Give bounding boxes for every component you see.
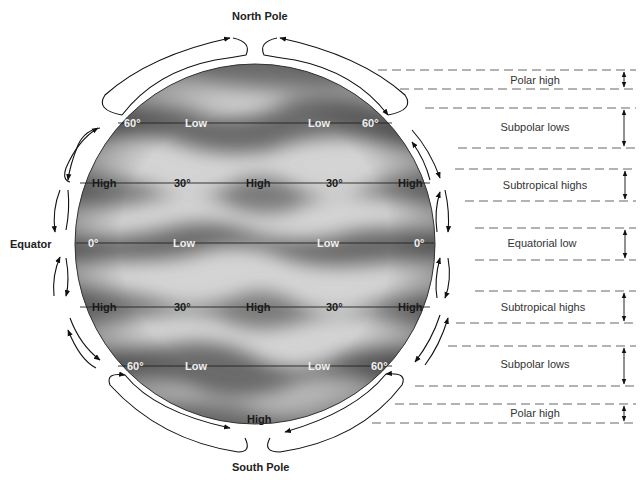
degree-label: 60° bbox=[362, 117, 379, 129]
zone-label-subpolar-lows-south: Subpolar lows bbox=[500, 358, 570, 370]
pressure-label: Low bbox=[308, 360, 330, 372]
zone-extent-arrows bbox=[624, 72, 625, 421]
zone-label-subpolar-lows-north: Subpolar lows bbox=[500, 121, 570, 133]
degree-label: 60° bbox=[124, 117, 141, 129]
pressure-label: High bbox=[92, 301, 117, 313]
degree-label: 60° bbox=[371, 360, 388, 372]
zone-label-polar-high-south: Polar high bbox=[510, 407, 560, 419]
pressure-label: High bbox=[398, 177, 423, 189]
pressure-label: High bbox=[92, 177, 117, 189]
zone-label-subtropical-highs-south: Subtropical highs bbox=[501, 301, 586, 313]
pressure-belts-diagram: 60° Low Low 60° High 30° High 30° High 0… bbox=[0, 0, 644, 480]
globe bbox=[60, 40, 460, 470]
pressure-label: High bbox=[246, 301, 271, 313]
degree-label: 0° bbox=[88, 237, 99, 249]
pressure-label: High bbox=[398, 301, 423, 313]
degree-label: 60° bbox=[127, 360, 144, 372]
south-pole-label: South Pole bbox=[232, 461, 289, 473]
pressure-label: Low bbox=[185, 117, 207, 129]
degree-label: 30° bbox=[326, 177, 343, 189]
south-polar-high-label: High bbox=[247, 413, 272, 425]
pressure-label: Low bbox=[308, 117, 330, 129]
pressure-label: High bbox=[246, 177, 271, 189]
pressure-label: Low bbox=[173, 237, 195, 249]
pressure-label: Low bbox=[317, 237, 339, 249]
degree-label: 30° bbox=[174, 301, 191, 313]
zone-label-equatorial-low: Equatorial low bbox=[507, 237, 576, 249]
zone-labels: Polar high Subpolar lows Subtropical hig… bbox=[500, 74, 587, 419]
degree-label: 0° bbox=[414, 237, 425, 249]
pressure-label: Low bbox=[185, 360, 207, 372]
north-pole-label: North Pole bbox=[232, 10, 288, 22]
zone-label-polar-high-north: Polar high bbox=[510, 74, 560, 86]
zone-label-subtropical-highs-north: Subtropical highs bbox=[503, 179, 588, 191]
equator-label: Equator bbox=[10, 238, 52, 250]
degree-label: 30° bbox=[174, 177, 191, 189]
degree-label: 30° bbox=[326, 301, 343, 313]
